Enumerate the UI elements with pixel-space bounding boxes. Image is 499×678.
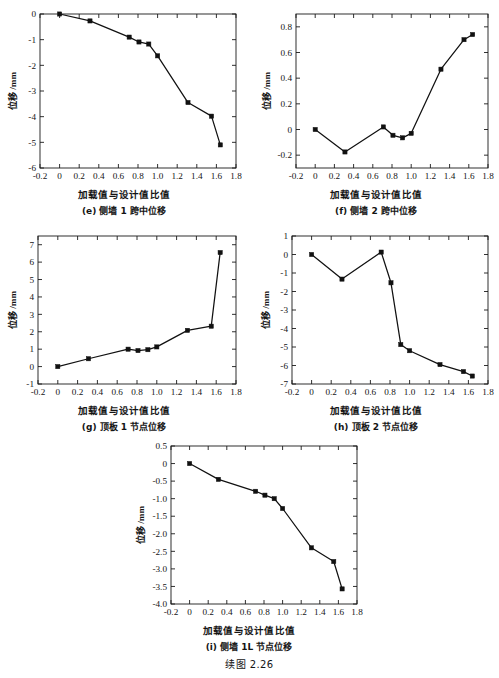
- svg-text:1.0: 1.0: [151, 387, 163, 397]
- svg-text:0.2: 0.2: [325, 387, 337, 397]
- svg-text:-6: -6: [28, 163, 36, 173]
- chart-svg-h: -0.200.20.40.60.81.01.21.41.61.810-1-2-3…: [258, 226, 494, 402]
- svg-text:0.2: 0.2: [73, 171, 85, 181]
- chart-svg-i: -0.200.20.40.60.81.01.21.41.61.80.50-0.5…: [131, 436, 367, 622]
- svg-text:3: 3: [29, 310, 34, 320]
- svg-text:0.6: 0.6: [111, 387, 123, 397]
- chart-svg-e: -0.200.20.40.60.81.01.21.41.61.80-1-2-3-…: [6, 4, 242, 186]
- svg-text:7: 7: [29, 240, 34, 250]
- svg-text:1.0: 1.0: [405, 171, 417, 181]
- x-axis-title-g: 加载值与设计值比值: [6, 403, 242, 417]
- chart-panel-h: -0.200.20.40.60.81.01.21.41.61.810-1-2-3…: [258, 226, 494, 433]
- plot-area-g: -0.200.20.40.60.81.01.21.41.61.876543210…: [6, 226, 242, 402]
- svg-text:5: 5: [29, 275, 34, 285]
- chart-panel-i: -0.200.20.40.60.81.01.21.41.61.80.50-0.5…: [131, 436, 367, 653]
- svg-text:0: 0: [187, 607, 192, 617]
- svg-text:0.8: 0.8: [132, 171, 144, 181]
- svg-text:0.6: 0.6: [365, 387, 377, 397]
- svg-text:-1: -1: [280, 268, 288, 278]
- panel-caption-e: (e) 侧墙 1 跨中位移: [6, 204, 242, 217]
- svg-text:0.8: 0.8: [386, 171, 398, 181]
- svg-text:-1.0: -1.0: [152, 494, 167, 504]
- svg-text:1.4: 1.4: [443, 387, 455, 397]
- svg-text:1.4: 1.4: [314, 607, 326, 617]
- svg-text:-2.0: -2.0: [152, 529, 167, 539]
- svg-text:-3.0: -3.0: [152, 564, 167, 574]
- chart-panel-f: -0.200.20.40.60.81.01.21.41.61.80.80.60.…: [258, 4, 494, 217]
- svg-text:1.6: 1.6: [210, 387, 222, 397]
- svg-text:-0.5: -0.5: [152, 476, 167, 486]
- svg-text:1.2: 1.2: [171, 387, 183, 397]
- svg-text:位移 /mm: 位移 /mm: [7, 291, 18, 330]
- svg-text:-4: -4: [28, 112, 36, 122]
- svg-text:0: 0: [29, 362, 34, 372]
- svg-text:0: 0: [309, 387, 314, 397]
- svg-text:0.6: 0.6: [281, 48, 293, 58]
- chart-panel-g: -0.200.20.40.60.81.01.21.41.61.876543210…: [6, 226, 242, 433]
- svg-text:0: 0: [287, 125, 292, 135]
- svg-text:1.8: 1.8: [482, 387, 494, 397]
- svg-text:0.4: 0.4: [348, 171, 360, 181]
- x-axis-title-f: 加载值与设计值比值: [258, 187, 494, 201]
- svg-text:0: 0: [57, 171, 62, 181]
- svg-text:-1.5: -1.5: [152, 511, 167, 521]
- svg-text:0.2: 0.2: [72, 387, 84, 397]
- svg-text:1.2: 1.2: [423, 387, 435, 397]
- svg-text:1: 1: [283, 231, 288, 241]
- panel-caption-f: (f) 侧墙 2 跨中位移: [258, 204, 494, 217]
- svg-text:2: 2: [29, 327, 34, 337]
- panel-caption-h: (h) 顶板 2 节点位移: [258, 420, 494, 433]
- svg-text:0.8: 0.8: [384, 387, 396, 397]
- svg-text:-7: -7: [280, 379, 288, 389]
- figure-caption: 续图 2.26: [0, 656, 499, 671]
- svg-text:0.6: 0.6: [367, 171, 379, 181]
- svg-text:1.2: 1.2: [171, 171, 183, 181]
- x-axis-title-h: 加载值与设计值比值: [258, 403, 494, 417]
- svg-text:-4: -4: [280, 324, 288, 334]
- svg-text:0.4: 0.4: [221, 607, 233, 617]
- svg-text:1.0: 1.0: [152, 171, 164, 181]
- svg-text:-5: -5: [280, 342, 288, 352]
- svg-text:0.4: 0.4: [92, 387, 104, 397]
- svg-text:-0.2: -0.2: [277, 150, 292, 160]
- svg-text:-3: -3: [280, 305, 288, 315]
- figure-page: -0.200.20.40.60.81.01.21.41.61.80-1-2-3-…: [0, 0, 499, 678]
- svg-text:-6: -6: [280, 361, 288, 371]
- panel-caption-i: (i) 侧墙 1L 节点位移: [131, 640, 367, 653]
- svg-text:-3.5: -3.5: [152, 582, 167, 592]
- svg-text:0: 0: [283, 250, 288, 260]
- svg-text:-1: -1: [28, 35, 36, 45]
- svg-text:0.2: 0.2: [202, 607, 214, 617]
- x-axis-title-i: 加载值与设计值比值: [131, 623, 367, 637]
- svg-text:0.8: 0.8: [131, 387, 143, 397]
- svg-text:1.0: 1.0: [277, 607, 289, 617]
- plot-area-e: -0.200.20.40.60.81.01.21.41.61.80-1-2-3-…: [6, 4, 242, 186]
- svg-text:1.6: 1.6: [333, 607, 345, 617]
- svg-text:0: 0: [56, 387, 61, 397]
- svg-text:-2: -2: [280, 287, 288, 297]
- svg-text:1.2: 1.2: [295, 607, 307, 617]
- chart-svg-f: -0.200.20.40.60.81.01.21.41.61.80.80.60.…: [258, 4, 494, 186]
- svg-text:0.4: 0.4: [93, 171, 105, 181]
- plot-area-i: -0.200.20.40.60.81.01.21.41.61.80.50-0.5…: [131, 436, 367, 622]
- chart-svg-g: -0.200.20.40.60.81.01.21.41.61.876543210…: [6, 226, 242, 402]
- svg-text:1.8: 1.8: [351, 607, 363, 617]
- svg-text:-4.0: -4.0: [152, 599, 167, 609]
- svg-text:1.2: 1.2: [425, 171, 437, 181]
- svg-text:位移 /mm: 位移 /mm: [7, 72, 18, 111]
- svg-text:0: 0: [313, 171, 318, 181]
- plot-area-h: -0.200.20.40.60.81.01.21.41.61.810-1-2-3…: [258, 226, 494, 402]
- svg-text:1: 1: [29, 344, 34, 354]
- svg-text:0.8: 0.8: [258, 607, 270, 617]
- svg-text:0: 0: [31, 9, 36, 19]
- svg-text:位移 /mm: 位移 /mm: [261, 72, 272, 111]
- x-axis-title-e: 加载值与设计值比值: [6, 187, 242, 201]
- svg-text:-1: -1: [26, 379, 34, 389]
- svg-text:0.6: 0.6: [113, 171, 125, 181]
- chart-panel-e: -0.200.20.40.60.81.01.21.41.61.80-1-2-3-…: [6, 4, 242, 217]
- svg-text:-5: -5: [28, 138, 36, 148]
- svg-text:-0.2: -0.2: [289, 171, 304, 181]
- svg-text:1.4: 1.4: [444, 171, 456, 181]
- svg-text:-2.5: -2.5: [152, 547, 167, 557]
- svg-text:1.0: 1.0: [404, 387, 416, 397]
